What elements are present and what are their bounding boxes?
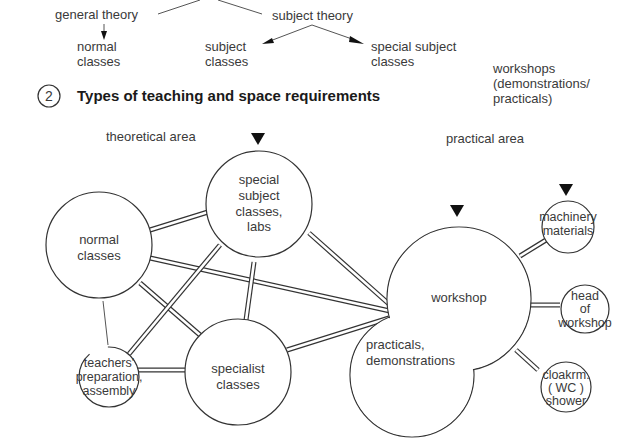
practical-area-label: practical area bbox=[446, 131, 525, 146]
svg-text:workshop: workshop bbox=[430, 290, 487, 305]
node-cloakroom: cloakrm. ( WC ) shower bbox=[541, 362, 591, 412]
node-head-of-workshop: head of workshop bbox=[557, 285, 612, 333]
svg-text:normal: normal bbox=[79, 232, 119, 247]
entrance-marker-icon bbox=[559, 184, 573, 196]
svg-text:assembly: assembly bbox=[83, 384, 137, 398]
general-theory-label: general theory bbox=[55, 7, 139, 22]
svg-text:preparation,: preparation, bbox=[76, 370, 143, 384]
svg-text:subject: subject bbox=[238, 188, 280, 203]
svg-text:labs: labs bbox=[247, 219, 271, 234]
workshops-label-1: workshops bbox=[492, 61, 556, 76]
special-subject-classes-label-2: classes bbox=[371, 54, 415, 69]
svg-text:special: special bbox=[239, 172, 280, 187]
svg-text:of: of bbox=[580, 302, 591, 316]
svg-text:classes: classes bbox=[216, 377, 260, 392]
node-machinery-materials: machinery materials bbox=[539, 184, 597, 253]
arrow-left-icon bbox=[262, 38, 274, 44]
svg-text:classes,: classes, bbox=[236, 204, 283, 219]
svg-text:head: head bbox=[571, 289, 599, 303]
normal-classes-label-1: normal bbox=[77, 39, 117, 54]
svg-text:( WC ): ( WC ) bbox=[548, 381, 584, 395]
space-requirements-diagram: general theory subject theory normal cla… bbox=[0, 0, 643, 440]
practicals-label-1: practicals, bbox=[366, 337, 425, 352]
node-special-subject-classes: special subject classes, labs bbox=[206, 133, 312, 257]
workshops-label-3: practicals) bbox=[493, 91, 552, 106]
svg-text:workshop: workshop bbox=[557, 316, 612, 330]
svg-text:machinery: machinery bbox=[539, 210, 597, 224]
node-specialist-classes: specialist classes bbox=[185, 319, 291, 425]
node-normal-classes: normal classes bbox=[46, 192, 152, 298]
entrance-marker-icon bbox=[251, 133, 265, 145]
arrow-right-icon bbox=[349, 36, 364, 44]
subject-theory-label: subject theory bbox=[272, 8, 353, 23]
svg-text:cloakrm.: cloakrm. bbox=[542, 368, 589, 382]
normal-classes-label-2: classes bbox=[77, 54, 121, 69]
svg-text:classes: classes bbox=[77, 248, 121, 263]
entrance-marker-icon bbox=[450, 205, 464, 217]
svg-text:shower: shower bbox=[546, 394, 586, 408]
svg-text:materials: materials bbox=[543, 224, 594, 238]
svg-text:specialist: specialist bbox=[211, 361, 265, 376]
workshops-label-2: (demonstrations/ bbox=[493, 76, 590, 91]
figure-title: Types of teaching and space requirements bbox=[77, 87, 380, 104]
subject-classes-label-2: classes bbox=[205, 54, 249, 69]
subject-classes-label-1: subject bbox=[205, 39, 247, 54]
special-subject-classes-label-1: special subject bbox=[371, 39, 457, 54]
theoretical-area-label: theoretical area bbox=[106, 129, 196, 144]
node-teachers-preparation: teachers' preparation, assembly bbox=[76, 347, 143, 407]
svg-text:teachers': teachers' bbox=[84, 356, 134, 370]
practicals-label-2: demonstrations bbox=[366, 353, 455, 368]
figure-number: 2 bbox=[45, 88, 53, 104]
